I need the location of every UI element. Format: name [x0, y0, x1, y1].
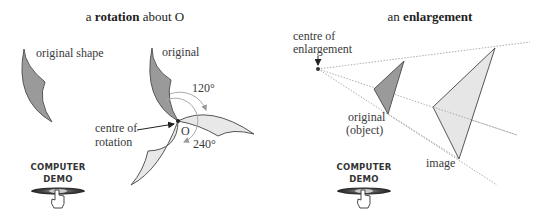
rotated-shape-240: [131, 121, 178, 185]
angle-120-label: 120°: [192, 81, 215, 95]
centre-of-rotation-arrow: [137, 124, 174, 130]
label-image: image: [426, 156, 455, 170]
label-original-object-2: (object): [346, 123, 383, 137]
computer-demo-button-right[interactable]: COMPUTER DEMO: [337, 162, 392, 208]
label-original-shape: original shape: [36, 46, 104, 60]
angle-240-label: 240°: [193, 137, 216, 151]
label-original-object-1: original: [348, 110, 386, 124]
enlargement-title: an enlargement: [388, 9, 474, 24]
demo-label-line2: DEMO: [43, 174, 72, 184]
rotation-title: a rotation about O: [86, 9, 184, 24]
demo-label-line1: COMPUTER: [337, 162, 392, 172]
label-centre-enlargement-2: enlargement: [293, 42, 353, 56]
label-original: original: [162, 45, 200, 59]
label-O: O: [181, 124, 190, 138]
original-triangle: [374, 61, 404, 114]
transformations-diagram: a rotation about O original shape origin…: [0, 0, 547, 222]
demo-label-line2: DEMO: [349, 174, 378, 184]
label-centre-enlargement-1: centre of: [293, 29, 335, 43]
label-centre-rotation-1: centre of: [95, 121, 137, 135]
image-triangle: [433, 48, 495, 159]
computer-demo-button-left[interactable]: COMPUTER DEMO: [31, 162, 86, 208]
centre-of-rotation-point: [176, 119, 180, 123]
label-centre-rotation-2: rotation: [95, 135, 132, 149]
pointing-hand-icon: [31, 188, 85, 209]
demo-label-line1: COMPUTER: [31, 162, 86, 172]
centre-of-enlargement-point: [316, 67, 320, 71]
pointing-hand-icon: [337, 188, 391, 209]
